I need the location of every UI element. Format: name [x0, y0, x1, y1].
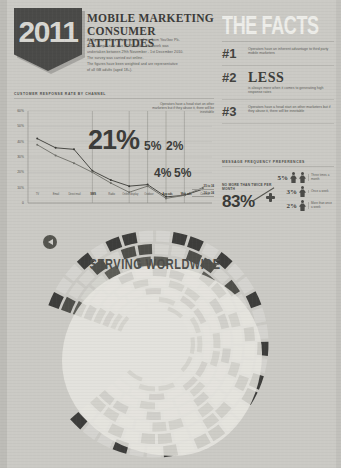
person-icon: [290, 172, 297, 183]
x-axis-tick: SMS: [84, 193, 103, 196]
frequency-label: More than once a week: [308, 202, 334, 209]
fact-text: is always more when it comes to generati…: [248, 86, 334, 95]
fact-number: #3: [222, 105, 242, 119]
x-axis-tick: Radio: [102, 193, 121, 196]
fact-text: Operators have an inherent advantage to …: [248, 47, 334, 56]
y-axis-tick: 0: [13, 201, 24, 205]
fact-body: Operators have a head start on other mar…: [248, 105, 334, 119]
chart-x-axis: TVEmailDirect mailSMSRadioOnline display…: [28, 193, 214, 196]
intro-line: All figures, unless otherwise stated are…: [87, 38, 217, 43]
person-icon: [299, 172, 306, 183]
x-axis-tick: Outdoor: [140, 193, 159, 196]
chart-title: CUSTOMER RESPONSE RATE BY CHANNEL: [14, 92, 214, 99]
callout-value: 5%: [144, 140, 161, 152]
legend-item: 25 to 34: [192, 183, 214, 190]
response-rate-chart: CUSTOMER RESPONSE RATE BY CHANNEL Operat…: [14, 92, 214, 207]
chart-annotation: Operators have a head start on other mar…: [152, 102, 214, 115]
y-axis-tick: 40%: [13, 140, 24, 144]
chart-plot-area: 21% 5% 2% 4% 5% 25 to 34 16 to 24 60%50%…: [14, 107, 214, 207]
y-axis-tick: 10%: [13, 186, 24, 190]
intro-paragraph: All figures, unless otherwise stated are…: [87, 38, 217, 73]
frequency-label: Three times a month: [308, 174, 334, 181]
frequency-percent: 3%: [287, 188, 298, 196]
frequency-percent: 5%: [278, 174, 289, 182]
intro-line: Total sample size was 2188 adults. Field…: [87, 44, 217, 49]
callout-value: 4%: [154, 167, 171, 179]
callout-value: 21%: [88, 127, 139, 154]
fact-item: #2 LESS is always more when it comes to …: [222, 66, 334, 100]
message-frequency-heading: MESSAGE FREQUENCY PREFERENCES: [222, 160, 334, 167]
person-icon: [299, 186, 306, 197]
fact-item: #1 Operators have an inherent advantage …: [222, 42, 334, 66]
fact-emphasis: LESS: [248, 71, 334, 85]
message-frequency-panel: MESSAGE FREQUENCY PREFERENCES NO MORE TH…: [222, 160, 334, 219]
poster-right-edge: [336, 0, 341, 468]
frequency-row: 3% Once a week: [287, 186, 335, 197]
title-line-1: MOBILE MARKETING: [87, 12, 214, 24]
fact-text: Operators have a head start on other mar…: [248, 105, 334, 114]
fact-body: LESS is always more when it comes to gen…: [248, 71, 334, 95]
intro-line: The figures have been weighted and are r…: [87, 62, 217, 67]
callout-value: 5%: [174, 167, 191, 179]
frequency-percent: 2%: [287, 202, 298, 210]
intro-line: undertaken between 29th November - 1st D…: [87, 50, 217, 55]
radial-title: SERVING WORLDWIDE: [40, 257, 270, 272]
frequency-row: 2% More than once a week: [287, 200, 335, 211]
x-axis-tick: Online display: [121, 193, 140, 196]
intro-line: of all GB adults (aged 18+).: [87, 68, 217, 73]
person-icon: [299, 200, 306, 211]
y-axis-tick: 20%: [13, 170, 24, 174]
fact-number: #2: [222, 71, 242, 95]
serving-worldwide-diagram: SERVING WORLDWIDE: [40, 214, 270, 462]
infographic-poster: 2011 MOBILE MARKETING CONSUMER ATTITUDES…: [0, 0, 341, 468]
play-left-icon[interactable]: [43, 235, 57, 249]
y-axis-tick: 60%: [13, 109, 24, 113]
fact-item: #3 Operators have a head start on other …: [222, 100, 334, 124]
x-axis-tick: Email: [47, 193, 66, 196]
y-axis-tick: 30%: [13, 155, 24, 159]
fact-number: #1: [222, 47, 242, 61]
primary-stat-label: NO MORE THAN TWICE PER MONTH: [222, 183, 284, 191]
facts-heading: THE FACTS: [222, 12, 303, 38]
callout-value: 2%: [166, 140, 183, 152]
message-frequency-chart: NO MORE THAN TWICE PER MONTH 83% 5% Thre…: [222, 171, 334, 219]
intro-line: The survey was carried out online.: [87, 56, 217, 61]
year-label: 2011: [18, 15, 77, 49]
x-axis-tick: Direct mail: [65, 193, 84, 196]
poster-left-edge: [0, 0, 7, 468]
facts-panel: THE FACTS #1 Operators have an inherent …: [222, 12, 334, 124]
fact-body: Operators have an inherent advantage to …: [248, 47, 334, 61]
x-axis-tick: App ads: [158, 193, 177, 196]
y-axis-tick: 50%: [13, 124, 24, 128]
star-icon: [266, 193, 275, 202]
legend-item: 16 to 24: [192, 190, 214, 197]
x-axis-tick: TV: [28, 193, 47, 196]
frequency-row: 5% Three times a month: [278, 172, 335, 183]
chart-legend: 25 to 34 16 to 24: [192, 183, 214, 197]
chart-svg: [14, 107, 214, 207]
frequency-label: Once a week: [308, 190, 334, 194]
